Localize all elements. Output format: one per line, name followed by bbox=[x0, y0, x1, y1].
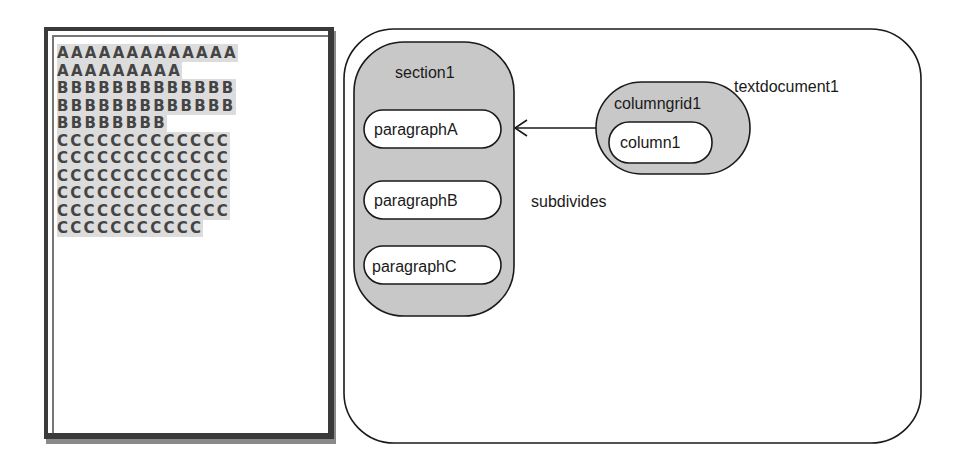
paragraph-a-label: paragraphA bbox=[374, 121, 458, 138]
structure-diagram: textdocument1 section1 paragraphA paragr… bbox=[0, 0, 957, 469]
section-label: section1 bbox=[395, 64, 455, 81]
relation-label: subdivides bbox=[531, 193, 607, 210]
paragraph-b-label: paragraphB bbox=[374, 192, 458, 209]
paragraph-c-label: paragraphC bbox=[372, 258, 457, 275]
textdocument-label: textdocument1 bbox=[734, 78, 839, 95]
column1-label: column1 bbox=[620, 134, 681, 151]
columngrid-label: columngrid1 bbox=[614, 95, 701, 112]
